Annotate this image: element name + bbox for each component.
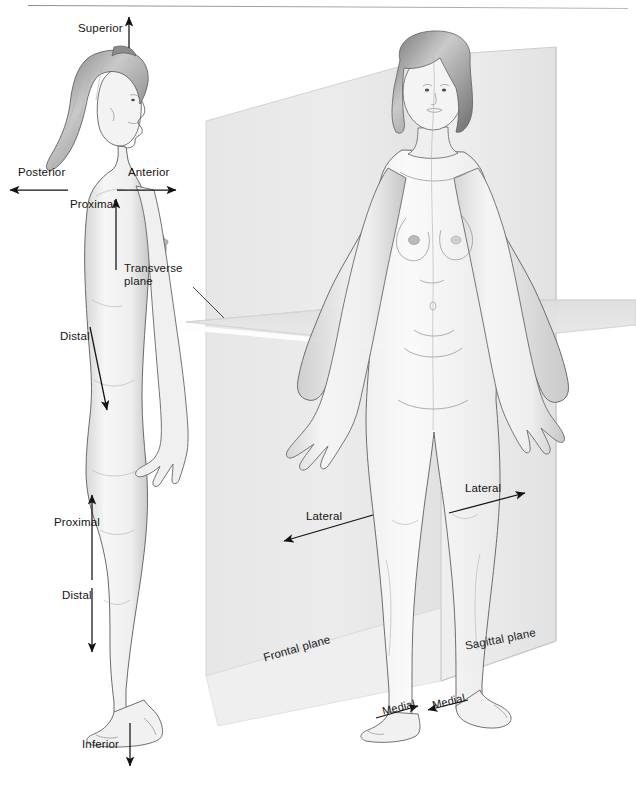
label-distal-leg: Distal [62,589,92,601]
label-anterior: Anterior [128,166,169,178]
label-lateral-right: Lateral [465,482,501,494]
label-superior: Superior [78,22,123,34]
label-transverse-plane: Transverseplane [124,262,183,288]
anatomy-figure: Superior Posterior Anterior Proximal Dis… [0,0,636,786]
label-proximal-leg: Proximal [54,516,100,528]
label-distal-arm: Distal [60,330,90,342]
label-proximal-arm: Proximal [70,198,116,210]
label-transverse-plane-block: Transverseplane [124,262,183,288]
label-posterior: Posterior [18,166,65,178]
label-lateral-left: Lateral [306,510,342,522]
label-inferior: Inferior [82,738,119,750]
lateral-right-arrow [449,493,525,513]
distal-arm-arrow [90,327,107,410]
annotation-arrows-layer [0,0,636,786]
transverse-plane-leader [193,287,224,318]
